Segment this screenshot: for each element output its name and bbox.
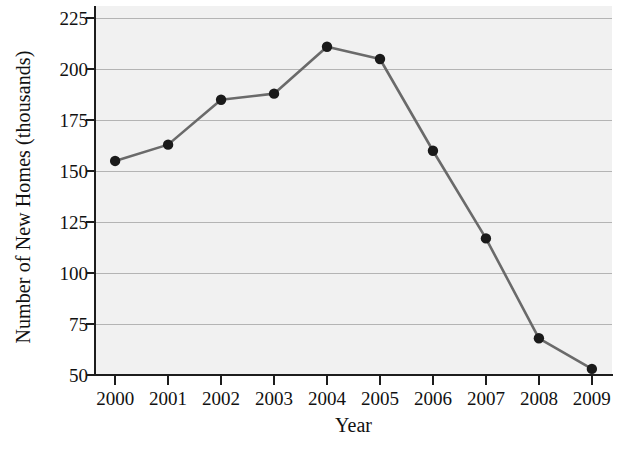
y-axis-tick-mark [86, 170, 95, 172]
gridline [95, 69, 612, 70]
y-axis-tick-label: 100 [30, 264, 88, 283]
gridlines [95, 6, 612, 375]
y-axis-tick-mark [86, 119, 95, 121]
gridline [95, 222, 612, 223]
line-chart-figure: Number of New Homes (thousands) 50751001… [0, 0, 622, 451]
y-axis-tick-label: 225 [30, 9, 88, 28]
x-axis-tick-label: 2002 [191, 388, 251, 409]
x-axis-tick-label: 2009 [562, 388, 622, 409]
x-axis-tick-mark [167, 376, 169, 385]
y-axis-tick-mark [86, 272, 95, 274]
plot-area [95, 6, 612, 375]
x-axis-title: Year [95, 414, 612, 437]
x-axis-tick-mark [273, 376, 275, 385]
y-axis-tick-mark [86, 68, 95, 70]
x-axis-tick-label: 2006 [403, 388, 463, 409]
x-axis-tick-label: 2007 [456, 388, 516, 409]
gridline [95, 171, 612, 172]
x-axis-tick-mark [379, 376, 381, 385]
y-axis-tick-label: 200 [30, 60, 88, 79]
y-axis-tick-label: 50 [30, 366, 88, 385]
x-axis-tick-mark [114, 376, 116, 385]
x-axis-tick-label: 2000 [85, 388, 145, 409]
gridline [95, 273, 612, 274]
y-axis-tick-label: 150 [30, 162, 88, 181]
x-axis-tick-mark [326, 376, 328, 385]
x-axis-tick-mark [432, 376, 434, 385]
y-axis-line [94, 6, 96, 375]
x-axis-tick-label: 2005 [350, 388, 410, 409]
x-axis-tick-mark [538, 376, 540, 385]
x-axis-line [94, 374, 613, 376]
y-axis-tick-label: 175 [30, 111, 88, 130]
x-axis-tick-mark [220, 376, 222, 385]
x-axis-tick-label: 2001 [138, 388, 198, 409]
x-axis-tick-mark [485, 376, 487, 385]
gridline [95, 18, 612, 19]
y-axis-tick-label: 75 [30, 315, 88, 334]
x-axis-tick-mark [591, 376, 593, 385]
x-axis-tick-label: 2008 [509, 388, 569, 409]
y-axis-tick-label: 125 [30, 213, 88, 232]
y-axis-tick-mark [86, 17, 95, 19]
gridline [95, 324, 612, 325]
x-axis-tick-label: 2004 [297, 388, 357, 409]
y-axis-tick-mark [86, 323, 95, 325]
gridline [95, 120, 612, 121]
y-axis-tick-mark [86, 221, 95, 223]
x-axis-tick-label: 2003 [244, 388, 304, 409]
y-axis-tick-mark [86, 374, 95, 376]
y-axis-tick-labels: 5075100125150175200225 [30, 0, 88, 390]
